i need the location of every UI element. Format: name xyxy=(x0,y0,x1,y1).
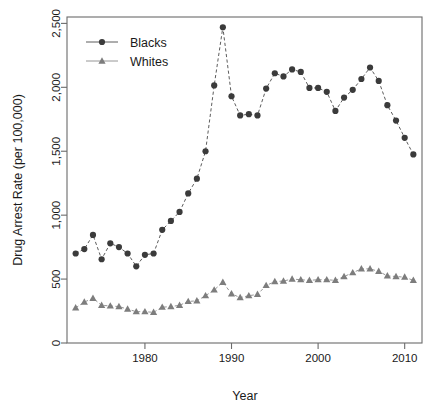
data-point-blacks xyxy=(125,250,131,256)
data-point-blacks xyxy=(150,250,156,256)
y-tick-label: 0 xyxy=(50,340,62,346)
data-point-blacks xyxy=(298,69,304,75)
data-point-blacks xyxy=(194,176,200,182)
x-axis-title: Year xyxy=(232,389,257,403)
x-tick-label: 1980 xyxy=(132,352,158,364)
data-point-blacks xyxy=(220,24,226,30)
data-point-blacks xyxy=(202,148,208,154)
data-point-blacks xyxy=(168,218,174,224)
data-point-blacks xyxy=(81,246,87,252)
y-tick-label: 1,500 xyxy=(50,137,62,166)
y-axis-title: Drug Arrest Rate (per 100,000) xyxy=(11,94,25,266)
data-point-blacks xyxy=(402,135,408,141)
data-point-blacks xyxy=(246,111,252,117)
y-tick-label: 1,000 xyxy=(50,201,62,230)
data-point-blacks xyxy=(237,112,243,118)
legend-label-blacks: Blacks xyxy=(130,36,167,50)
y-tick-label: 2,000 xyxy=(50,73,62,102)
data-point-blacks xyxy=(116,244,122,250)
y-tick-label: 2,500 xyxy=(50,9,62,38)
data-point-blacks xyxy=(73,250,79,256)
data-point-blacks xyxy=(90,232,96,238)
x-tick-label: 2010 xyxy=(392,352,418,364)
data-point-blacks xyxy=(341,94,347,100)
data-point-blacks xyxy=(376,78,382,84)
data-point-blacks xyxy=(272,70,278,76)
data-point-blacks xyxy=(280,73,286,79)
data-point-blacks xyxy=(332,108,338,114)
data-point-blacks xyxy=(367,64,373,70)
data-point-blacks xyxy=(133,263,139,269)
data-point-blacks xyxy=(384,102,390,108)
data-point-blacks xyxy=(393,117,399,123)
data-point-blacks xyxy=(107,240,113,246)
data-point-blacks xyxy=(228,93,234,99)
data-point-blacks xyxy=(254,112,260,118)
data-point-blacks xyxy=(159,227,165,233)
data-point-blacks xyxy=(358,76,364,82)
data-point-blacks xyxy=(176,209,182,215)
y-tick-label: 500 xyxy=(50,269,62,288)
x-tick-label: 2000 xyxy=(305,352,331,364)
data-point-blacks xyxy=(185,190,191,196)
drug-arrest-rate-scatter-chart: 05001,0001,5002,0002,500 198019902000201… xyxy=(0,0,439,413)
data-point-blacks xyxy=(142,252,148,258)
legend-label-whites: Whites xyxy=(130,55,168,69)
legend-marker-blacks xyxy=(99,39,105,45)
data-point-blacks xyxy=(99,256,105,262)
data-point-blacks xyxy=(263,85,269,91)
data-point-blacks xyxy=(410,151,416,157)
data-point-blacks xyxy=(315,85,321,91)
data-point-blacks xyxy=(324,89,330,95)
chart-figure: 05001,0001,5002,0002,500 198019902000201… xyxy=(0,0,439,413)
data-point-blacks xyxy=(306,85,312,91)
x-tick-label: 1990 xyxy=(219,352,245,364)
data-point-blacks xyxy=(211,82,217,88)
data-point-blacks xyxy=(289,66,295,72)
data-point-blacks xyxy=(350,87,356,93)
